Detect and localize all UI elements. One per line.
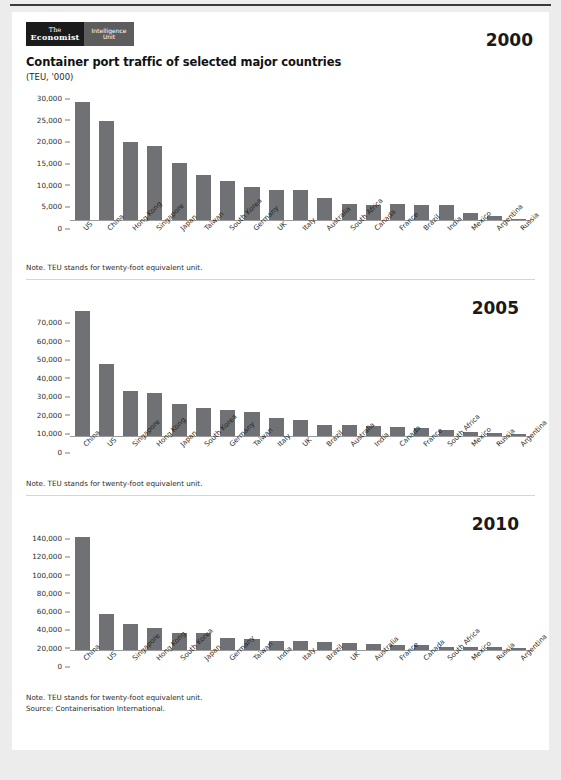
x-label-slot: Mexico xyxy=(458,437,482,477)
x-axis-label: UK xyxy=(276,220,289,233)
bar-slot xyxy=(434,306,458,436)
x-label-slot: Brazil xyxy=(410,221,434,261)
bar-slot xyxy=(313,90,337,220)
x-label-slot: Canada xyxy=(361,221,385,261)
economist-intelligence-unit-logo: The Economist Intelligence Unit xyxy=(26,22,134,46)
bar-slot xyxy=(337,90,361,220)
bar-slot xyxy=(70,306,94,436)
x-label-slot: South Korea xyxy=(191,437,215,477)
bar-slot xyxy=(216,90,240,220)
x-label-slot: Hong Kong xyxy=(143,651,167,691)
bar-slot xyxy=(94,90,118,220)
note-2005: Note. TEU stands for twenty-foot equival… xyxy=(26,479,535,488)
y-axis-tick: 70,000 xyxy=(37,318,70,327)
x-label-slot: UK xyxy=(264,221,288,261)
x-label-slot: UK xyxy=(337,651,361,691)
y-axis-2000: 05,00010,00015,00020,00025,00030,000 xyxy=(26,98,70,228)
y-axis-tick: 10,000 xyxy=(37,429,70,438)
bar-us xyxy=(75,102,90,220)
y-axis-tick: 30,000 xyxy=(37,94,70,103)
x-label-slot: China xyxy=(70,437,94,477)
x-axis-labels-2005: ChinaUSSingaporeHong KongJapanSouth Kore… xyxy=(70,437,531,477)
x-label-slot: UK xyxy=(288,437,312,477)
y-axis-tick: 20,000 xyxy=(37,643,70,652)
y-axis-tick: 100,000 xyxy=(32,570,70,579)
x-label-slot: Argentina xyxy=(483,221,507,261)
x-label-slot: Russia xyxy=(483,437,507,477)
bar-slot xyxy=(264,90,288,220)
y-axis-tick: 140,000 xyxy=(32,534,70,543)
x-label-slot: South Africa xyxy=(434,651,458,691)
bar-mexico xyxy=(463,213,478,220)
bar-slot xyxy=(70,90,94,220)
bar-china xyxy=(99,121,114,220)
x-axis-label: US xyxy=(106,650,118,662)
x-label-slot: Japan xyxy=(167,437,191,477)
y-axis-2005: 010,00020,00030,00040,00050,00060,00070,… xyxy=(26,322,70,452)
bar-china xyxy=(75,537,90,650)
bar-slot xyxy=(313,522,337,650)
bar-slot xyxy=(191,90,215,220)
bar-slot xyxy=(483,522,507,650)
bar-slot xyxy=(458,90,482,220)
x-label-slot: Russia xyxy=(483,651,507,691)
y-axis-tick: 20,000 xyxy=(37,410,70,419)
x-label-slot: Italy xyxy=(264,437,288,477)
bar-us xyxy=(99,364,114,436)
x-label-slot: Australia xyxy=(313,221,337,261)
x-label-slot: China xyxy=(94,221,118,261)
bar-slot xyxy=(410,306,434,436)
y-axis-tick: 120,000 xyxy=(32,552,70,561)
bar-slot xyxy=(94,522,118,650)
bar-australia xyxy=(366,644,381,650)
bar-uk xyxy=(293,420,308,436)
x-label-slot: South Africa xyxy=(337,221,361,261)
x-label-slot: Germany xyxy=(240,221,264,261)
bar-slot xyxy=(410,90,434,220)
y-axis-tick: 40,000 xyxy=(37,373,70,382)
x-axis-label: US xyxy=(106,436,118,448)
x-axis-labels-2010: ChinaUSSingaporeHong KongSouth KoreaJapa… xyxy=(70,651,531,691)
year-label-2000: 2000 xyxy=(486,30,533,50)
y-axis-tick: 20,000 xyxy=(37,137,70,146)
y-axis-tick: 60,000 xyxy=(37,336,70,345)
chart-2000: 05,00010,00015,00020,00025,00030,000 USC… xyxy=(26,90,535,272)
x-label-slot: Italy xyxy=(288,651,312,691)
x-label-slot: France xyxy=(410,437,434,477)
x-label-slot: US xyxy=(94,651,118,691)
y-axis-tick: 0 xyxy=(57,448,70,457)
bar-slot xyxy=(143,522,167,650)
bar-slot xyxy=(143,90,167,220)
plot-area-2000 xyxy=(70,90,531,221)
bar-taiwan xyxy=(196,175,211,221)
x-label-slot: Mexico xyxy=(458,651,482,691)
x-label-slot: South Korea xyxy=(216,221,240,261)
x-axis-label: UK xyxy=(349,650,362,663)
bar-slot xyxy=(288,522,312,650)
x-label-slot: Hong Kong xyxy=(119,221,143,261)
y-axis-tick: 25,000 xyxy=(37,115,70,124)
bar-slot xyxy=(240,522,264,650)
plot-area-2005 xyxy=(70,306,531,437)
note-2010: Note. TEU stands for twenty-foot equival… xyxy=(26,693,535,702)
y-axis-tick: 30,000 xyxy=(37,392,70,401)
bar-us xyxy=(99,614,114,650)
bar-slot xyxy=(361,522,385,650)
bar-hong-kong xyxy=(123,142,138,220)
bar-slot xyxy=(264,306,288,436)
x-label-slot: Singapore xyxy=(119,437,143,477)
bar-slot xyxy=(167,306,191,436)
x-label-slot: South Korea xyxy=(167,651,191,691)
y-axis-tick: 0 xyxy=(57,224,70,233)
bar-canada xyxy=(390,427,405,436)
x-label-slot: Italy xyxy=(288,221,312,261)
x-label-slot: India xyxy=(361,437,385,477)
x-label-slot: Japan xyxy=(191,651,215,691)
x-label-slot: Germany xyxy=(216,651,240,691)
bar-slot xyxy=(94,306,118,436)
x-label-slot: France xyxy=(385,651,409,691)
x-label-slot: Taiwan xyxy=(191,221,215,261)
x-label-slot: India xyxy=(434,221,458,261)
y-axis-tick: 40,000 xyxy=(37,625,70,634)
bar-singapore xyxy=(123,391,138,436)
